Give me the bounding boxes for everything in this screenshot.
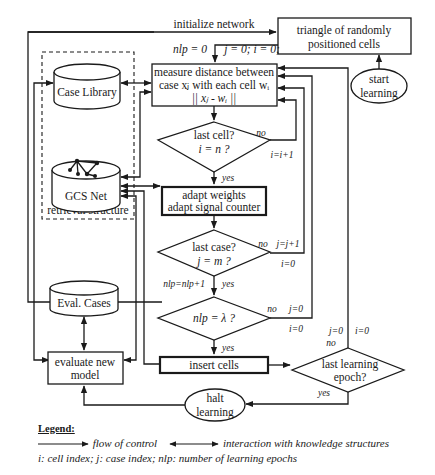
gcs-net-label: GCS Net: [65, 190, 108, 202]
start-learning-terminal: start learning: [351, 55, 407, 103]
measure-line3: || xⱼ - wᵢ ||: [192, 92, 237, 105]
halt-line2: learning: [196, 406, 234, 419]
evaluate-model-box: evaluate new model: [48, 352, 123, 384]
start-learning-line2: learning: [360, 87, 398, 100]
ji-init-label: j = 0; i = 0;: [222, 43, 280, 56]
legend-interaction: interaction with knowledge structures: [223, 437, 389, 449]
last-case-line1: last case?: [192, 241, 236, 253]
evaluate-line1: evaluate new: [55, 356, 116, 368]
legend-title: Legend:: [38, 423, 389, 434]
nlp-lambda-yes-label: yes: [221, 343, 234, 353]
last-epoch-decision: last learning epoch?: [292, 348, 404, 392]
insert-cells-label: insert cells: [189, 359, 239, 371]
evaluate-line2: model: [71, 369, 100, 381]
nlp-incr-label: nlp=nlp+1: [163, 279, 205, 289]
nlp-lambda-no-edge: [270, 76, 312, 318]
last-cell-decision: last cell? i = n ?: [158, 122, 270, 172]
legend: Legend: flow of control interaction with…: [38, 423, 389, 464]
legend-arrows-row: flow of control interaction with knowled…: [38, 437, 389, 449]
eval-cases-database: Eval. Cases: [50, 281, 118, 316]
triangle-cells-line1: triangle of randomly: [297, 24, 392, 37]
adapt-weights-box: adapt weights adapt signal counter: [162, 187, 266, 215]
last-case-line2: j = m ?: [195, 255, 231, 268]
last-case-reset-i-label: i=0: [281, 259, 295, 269]
last-epoch-line2: epoch?: [334, 371, 367, 384]
nlp-lambda-reset-j-label: j=0: [287, 304, 303, 314]
single-arrow-icon: [38, 440, 90, 448]
adapt-line2: adapt signal counter: [168, 201, 261, 214]
nlp-lambda-no-label: no: [267, 304, 277, 314]
gcs-insert-interaction: [121, 191, 160, 364]
halt-line1: halt: [206, 392, 224, 404]
insert-cells-box: insert cells: [160, 357, 268, 373]
start-learning-line1: start: [369, 73, 390, 85]
measure-line2: case xⱼ with each cell wᵢ: [159, 79, 269, 91]
nlp-init-label: nlp = 0: [173, 43, 207, 56]
gcs-evaluate-interaction: [121, 196, 136, 360]
double-arrow-icon: [168, 440, 220, 448]
nlp-lambda-label: nlp = λ ?: [193, 312, 235, 325]
triangle-cells-box: triangle of randomly positioned cells: [278, 18, 411, 54]
measure-line1: measure distance between: [154, 66, 274, 78]
last-cell-line2: i = n ?: [198, 143, 229, 155]
last-cell-no-label: no: [256, 128, 266, 138]
last-epoch-reset-j-label: j=0: [327, 326, 343, 336]
measure-distance-box: measure distance between case xⱼ with ea…: [152, 64, 277, 106]
last-case-no-edge: [270, 88, 304, 253]
legend-flow-of-control: flow of control: [93, 437, 157, 449]
last-case-decision: last case? j = m ?: [158, 230, 270, 276]
last-cell-line1: last cell?: [194, 129, 235, 141]
nlp-lambda-decision: nlp = λ ?: [158, 297, 270, 340]
eval-cases-label: Eval. Cases: [57, 297, 111, 309]
legend-indices: i: cell index; j: case index; nlp: numbe…: [38, 452, 389, 464]
last-case-no-label: no: [258, 239, 268, 249]
case-library-database: Case Library: [54, 64, 120, 109]
gcs-learning-flowchart: initialize network triangle of randomly …: [0, 0, 435, 475]
halt-learning-terminal: halt learning: [185, 389, 245, 421]
last-cell-incr-label: i=i+1: [271, 150, 294, 160]
last-epoch-yes-edge: [246, 392, 348, 404]
nlp-lambda-reset-i-label: i=0: [289, 324, 303, 334]
last-cell-yes-label: yes: [221, 173, 234, 183]
last-epoch-reset-i-label: i=0: [355, 326, 369, 336]
last-epoch-line1: last learning: [322, 358, 379, 371]
last-epoch-no-label: no: [326, 338, 336, 348]
gcs-net-database: GCS Net: [52, 159, 120, 212]
last-case-incr-j-label: j=j+1: [275, 239, 300, 249]
last-case-yes-label: yes: [221, 279, 234, 289]
gcs-measure-interaction: [121, 92, 151, 177]
halt-to-evaluate-edge: [84, 386, 185, 405]
left-knowledge-bus: [34, 83, 53, 360]
last-epoch-yes-label: yes: [317, 388, 330, 398]
case-library-label: Case Library: [57, 86, 117, 99]
initialize-network-label: initialize network: [174, 18, 255, 30]
triangle-cells-line2: positioned cells: [308, 38, 380, 51]
